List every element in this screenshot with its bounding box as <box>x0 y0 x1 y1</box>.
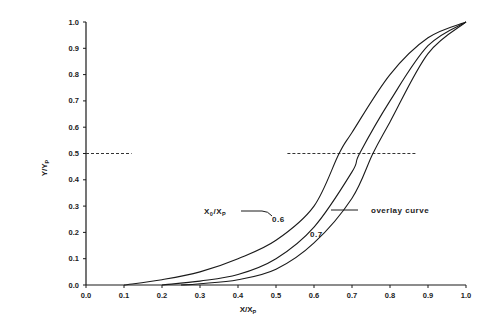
annotation-leader-0.6 <box>241 211 272 216</box>
x-tick-label: 0.8 <box>385 291 395 300</box>
x-tick-label: 0.0 <box>81 291 91 300</box>
y-tick-label: 0.3 <box>69 202 79 211</box>
y-tick-label: 0.6 <box>69 123 79 132</box>
y-tick-label: 0.1 <box>69 254 79 263</box>
overlay-curve-label: overlay curve <box>371 206 429 215</box>
parameter-annotation: X0/XP <box>204 207 226 217</box>
chart-area: 0.00.10.20.30.40.50.60.70.80.91.0 0.00.1… <box>0 0 490 332</box>
curve-label-0.7: 0.7 <box>310 230 323 239</box>
curve-label-0.6: 0.6 <box>272 215 285 224</box>
y-tick-label: 0.4 <box>69 175 80 184</box>
x-tick-label: 0.4 <box>233 291 244 300</box>
x-tick-label: 0.7 <box>347 291 357 300</box>
x-axis-ticks: 0.00.10.20.30.40.50.60.70.80.91.0 <box>81 285 471 300</box>
y-tick-label: 0.2 <box>69 228 79 237</box>
y-tick-label: 0.8 <box>69 70 79 79</box>
x-tick-label: 0.1 <box>119 291 129 300</box>
y-axis-ticks: 0.00.10.20.30.40.50.60.70.80.91.0 <box>69 18 86 290</box>
x-tick-label: 1.0 <box>461 291 471 300</box>
y-tick-label: 0.5 <box>69 149 79 158</box>
y-tick-label: 0.0 <box>69 281 79 290</box>
y-axis-label: Y/YP <box>40 159 50 176</box>
x-tick-label: 0.5 <box>271 291 281 300</box>
y-tick-label: 0.9 <box>69 44 79 53</box>
y-tick-label: 1.0 <box>69 18 79 27</box>
x-tick-label: 0.3 <box>195 291 205 300</box>
x-tick-label: 0.2 <box>157 291 167 300</box>
x-tick-label: 0.6 <box>309 291 319 300</box>
y-tick-label: 0.7 <box>69 96 79 105</box>
x-axis-label: X/XP <box>240 305 257 315</box>
x-tick-label: 0.9 <box>423 291 433 300</box>
